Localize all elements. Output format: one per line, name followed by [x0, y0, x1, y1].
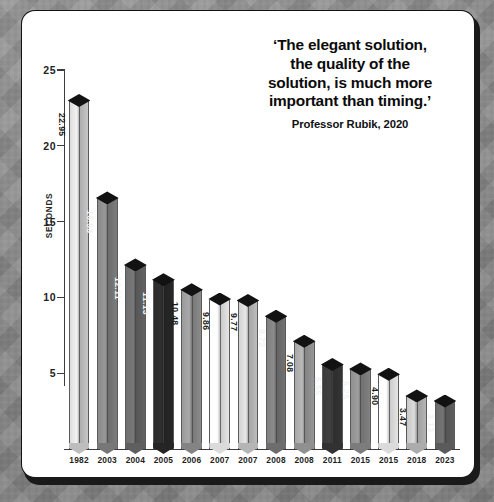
bar-value-label: 22.95 [57, 113, 67, 137]
bar-foot [125, 443, 146, 454]
bar-edge [360, 369, 361, 449]
y-tick-label: 5 [22, 367, 56, 379]
x-tick-label: 2011 [318, 455, 346, 465]
y-tick-label: 25 [22, 64, 56, 76]
y-tick [57, 297, 65, 298]
x-tick-label: 2008 [290, 455, 318, 465]
bar[interactable]: 9.86 [209, 300, 230, 449]
x-tick-label: 2007 [234, 455, 262, 465]
bar-foot [209, 443, 230, 454]
x-axis-line [64, 449, 460, 450]
bar-edge [192, 290, 193, 449]
bar[interactable]: 9.77 [238, 301, 259, 449]
x-tick-label: 2023 [431, 455, 459, 465]
x-tick-label: 2007 [206, 455, 234, 465]
bar[interactable]: 16.53 [97, 198, 118, 449]
bar-chart: SECONDS 510152025 22.9516.5312.1111.1310… [22, 11, 474, 477]
bar-value-label: 12.11 [114, 277, 124, 300]
bar-value-label: 5.55 [313, 377, 323, 395]
bar-value-label: 3.13 [426, 414, 436, 432]
bar[interactable]: 22.95 [69, 101, 90, 449]
bar-value-label: 5.25 [341, 381, 351, 399]
bar[interactable]: 5.25 [350, 369, 371, 449]
bar-edge [79, 101, 80, 449]
x-tick-label: 1982 [65, 455, 93, 465]
bar[interactable]: 5.55 [322, 365, 343, 449]
x-tick-label: 2006 [178, 455, 206, 465]
bar-edge [248, 301, 249, 449]
bar-foot [181, 443, 202, 454]
bar-foot [294, 443, 315, 454]
bar[interactable]: 3.47 [406, 396, 427, 449]
bar-edge [163, 280, 164, 449]
x-tick-label: 2004 [121, 455, 149, 465]
bar-foot [266, 443, 287, 454]
bar-edge [220, 300, 221, 449]
bar-foot [97, 443, 118, 454]
bar-edge [389, 375, 390, 449]
bar-edge [107, 198, 108, 449]
bar-edge [276, 317, 277, 449]
bar-edge [135, 265, 136, 449]
bar-edge [304, 342, 305, 449]
bar-edge [417, 396, 418, 449]
bar-value-label: 11.13 [142, 292, 152, 315]
bar-foot [406, 443, 427, 454]
y-tick [57, 221, 65, 222]
y-tick-label: 15 [22, 216, 56, 228]
bar[interactable]: 3.13 [435, 402, 456, 449]
bar-value-label: 3.47 [398, 408, 408, 426]
bar-edge [332, 365, 333, 449]
x-tick-label: 2005 [149, 455, 177, 465]
bar-value-label: 8.72 [257, 329, 267, 347]
y-tick [57, 373, 65, 374]
bar-foot [69, 443, 90, 454]
bar-value-label: 7.08 [285, 354, 295, 372]
bar-foot [238, 443, 259, 454]
bar-value-label: 9.86 [201, 312, 211, 330]
bar[interactable]: 10.48 [181, 290, 202, 449]
x-tick-label: 2015 [375, 455, 403, 465]
bar[interactable]: 4.90 [378, 375, 399, 449]
chart-card: ‘The elegant solution, the quality of th… [22, 11, 474, 477]
bar[interactable]: 7.08 [294, 342, 315, 449]
bar-foot [322, 443, 343, 454]
bar-value-label: 4.90 [369, 387, 379, 405]
bar-edge [445, 402, 446, 449]
bar[interactable]: 8.72 [266, 317, 287, 449]
y-tick [57, 145, 65, 146]
x-tick-label: 2003 [93, 455, 121, 465]
bar-value-label: 9.77 [229, 313, 239, 331]
y-tick-label: 10 [22, 291, 56, 303]
bar-value-label: 10.48 [170, 302, 180, 326]
bar-foot [153, 443, 174, 454]
bar-foot [378, 443, 399, 454]
bar-foot [350, 443, 371, 454]
x-tick-label: 2015 [346, 455, 374, 465]
bar-foot [435, 443, 456, 454]
y-tick [57, 69, 65, 70]
y-tick-label: 20 [22, 140, 56, 152]
x-tick-label: 2008 [262, 455, 290, 465]
bar-value-label: 16.53 [85, 210, 95, 234]
x-tick-label: 2018 [403, 455, 431, 465]
